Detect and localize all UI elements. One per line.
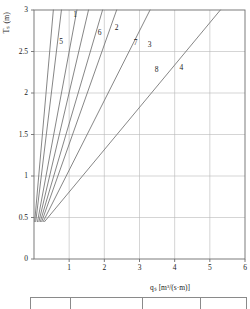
curve-label-3: 3	[148, 40, 152, 49]
curve-label-6: 6	[98, 28, 102, 37]
footer-table	[30, 297, 245, 309]
curve-label-2: 2	[115, 23, 119, 32]
curve-label-4: 4	[179, 63, 183, 72]
curve-label-7: 7	[134, 38, 138, 47]
curve-label-1: 1	[73, 10, 77, 19]
chart-figure: Tₛ (m) qₛ [m³/(s·m)] 00.511.522.53 12345…	[0, 0, 250, 309]
curve-label-5: 5	[59, 37, 63, 46]
curve-label-8: 8	[155, 65, 159, 74]
plot-area	[0, 0, 250, 309]
